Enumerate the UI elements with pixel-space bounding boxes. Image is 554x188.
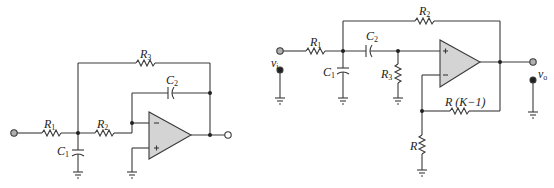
vi-terminal-icon [277, 48, 283, 54]
opamp-icon [440, 40, 480, 87]
label-vo: vo [538, 68, 547, 82]
label-left-r2: R2 [97, 118, 108, 132]
ground-icon [275, 98, 285, 104]
label-right-r2: R2 [419, 5, 430, 19]
label-right-c2: C2 [366, 30, 378, 44]
resistor-r3-icon [395, 64, 401, 83]
vo-ground-terminal-icon [530, 77, 536, 83]
opamp-icon [149, 112, 191, 159]
vo-terminal-icon [530, 59, 536, 65]
label-vi: vi [271, 57, 279, 71]
ground-icon [338, 98, 348, 104]
label-left-r3: R3 [140, 48, 151, 62]
ground-icon [417, 170, 427, 176]
label-right-rk: R (K−1) [445, 96, 485, 108]
label-right-r3: R3 [381, 68, 392, 82]
ground-icon [73, 172, 83, 178]
output-terminal-icon [225, 132, 231, 138]
schematics [0, 0, 554, 188]
label-right-r: R [410, 140, 417, 152]
figure: R1 R2 R3 C1 C2 R1 R2 R3 C1 C2 R (K−1) R … [0, 0, 554, 188]
label-right-r1: R1 [310, 36, 321, 50]
ground-icon [393, 98, 403, 104]
ground-icon [528, 112, 538, 118]
label-left-r1: R1 [44, 118, 55, 132]
resistor-r-icon [419, 135, 425, 154]
input-terminal-icon [11, 130, 17, 136]
label-left-c1: C1 [57, 145, 69, 159]
ground-icon [127, 172, 137, 178]
label-right-c1: C1 [323, 66, 335, 80]
label-left-c2: C2 [166, 74, 178, 88]
